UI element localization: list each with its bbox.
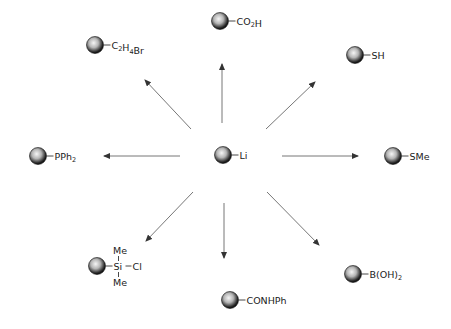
group-label: PPh2 [55,151,77,165]
group-label: Li [240,150,248,161]
resin-bead-icon [222,292,239,309]
bead-sme: SMe [385,148,430,165]
reaction-diagram: LiCO2HC2H4BrSHPPh2SMeSiMeMeClCONHPhB(OH)… [0,0,451,329]
resin-bead-icon [87,37,104,54]
nodes-group: LiCO2HC2H4BrSHPPh2SMeSiMeMeClCONHPhB(OH)… [30,13,430,309]
resin-bead-icon [385,148,402,165]
bead-c2h4br: C2H4Br [87,37,145,56]
resin-bead-icon [30,148,47,165]
bead-sime2cl: SiMeMeCl [89,245,142,288]
bead-sh: SH [347,47,385,64]
group-label: Si [114,261,123,272]
group-label: B(OH)2 [370,269,403,283]
resin-bead-icon [212,13,229,30]
group-label: SMe [410,151,430,162]
methyl-bottom-label: Me [113,277,127,288]
arrows-group [104,64,358,258]
group-label: SH [372,50,385,61]
resin-bead-icon [89,258,106,275]
chloro-label: Cl [133,261,142,272]
bead-co2h: CO2H [212,13,262,30]
arrow-to-sh [266,82,315,129]
bead-conhph: CONHPh [222,292,287,309]
resin-bead-icon [345,266,362,283]
resin-bead-icon [215,147,232,164]
bead-boh2: B(OH)2 [345,266,403,283]
arrow-to-boh2 [267,192,319,245]
resin-bead-icon [347,47,364,64]
group-label: CONHPh [247,295,287,306]
center-lithiated-bead: Li [215,147,248,164]
arrow-to-c2h4br [145,80,191,129]
arrow-to-sime2cl [146,192,193,241]
bead-pph2: PPh2 [30,148,77,165]
methyl-top-label: Me [113,245,127,256]
group-label: CO2H [237,16,262,30]
group-label: C2H4Br [112,40,145,56]
